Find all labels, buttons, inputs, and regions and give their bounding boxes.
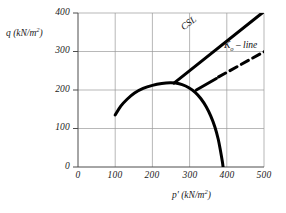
x-axis-title-paren: ) [208, 190, 211, 200]
xtick-label-200: 200 [140, 170, 164, 180]
y-axis-title-unit: (kN/m [13, 28, 36, 38]
k0-line-solid [196, 78, 216, 90]
ytick-label-100: 100 [44, 122, 70, 132]
y-axis-title-paren: ) [40, 28, 43, 38]
k0-line-annotation-label: Ko – line [224, 40, 257, 50]
x-axis-title-symbol: p' [172, 190, 179, 200]
yield-surface-curve [115, 83, 223, 167]
xtick-label-300: 300 [178, 170, 202, 180]
xtick-label-400: 400 [215, 170, 239, 180]
ytick-label-400: 400 [44, 7, 70, 17]
y-axis-ticks [73, 13, 78, 167]
ytick-label-200: 200 [44, 84, 70, 94]
xtick-label-100: 100 [103, 170, 127, 180]
xtick-label-0: 0 [66, 170, 90, 180]
k0-label-suffix: – line [234, 40, 258, 50]
x-axis-title: p' (kN/m2) [172, 190, 211, 200]
grid-horizontal [78, 13, 264, 129]
ytick-label-300: 300 [44, 45, 70, 55]
k0-line-dashed [219, 51, 266, 77]
x-axis-title-unit: (kN/m [181, 190, 204, 200]
chart-figure: 400 300 200 100 0 0 100 200 300 400 500 … [0, 0, 286, 213]
xtick-label-500: 500 [252, 170, 276, 180]
series-group [115, 11, 266, 167]
y-axis-title: q (kN/m2) [6, 28, 43, 38]
